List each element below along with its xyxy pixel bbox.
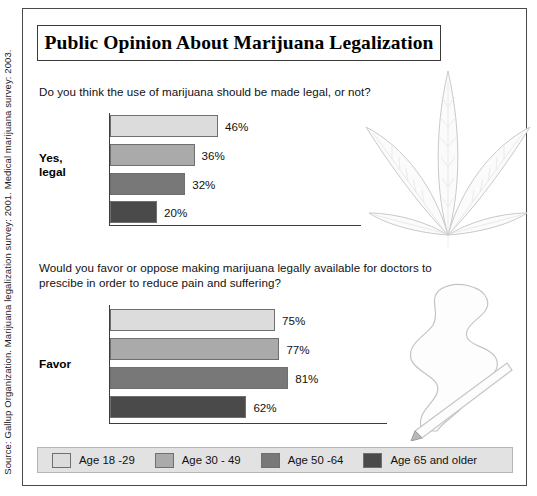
bar-age-18-29 xyxy=(110,115,218,137)
source-credit: Source: Gallup Organization. Marijuana l… xyxy=(3,35,13,475)
bar-value-label: 77% xyxy=(286,343,309,356)
bar-value-label: 46% xyxy=(225,120,248,133)
legend-swatch-icon xyxy=(155,453,174,468)
category-label-2: Favor xyxy=(39,357,105,371)
x-axis-line-2 xyxy=(109,423,387,424)
legend-label: Age 18 -29 xyxy=(79,454,135,466)
category-label-1-line1: Yes, xyxy=(39,151,105,165)
legend-swatch-icon xyxy=(261,453,280,468)
bar-age-30-49 xyxy=(110,144,195,166)
bar-age-65-older xyxy=(110,396,246,418)
bar-value-label: 20% xyxy=(164,206,187,219)
legend-label: Age 30 - 49 xyxy=(182,454,241,466)
category-label-1: Yes, legal xyxy=(39,151,105,179)
page-title: Public Opinion About Marijuana Legalizat… xyxy=(45,32,434,54)
legend-swatch-icon xyxy=(363,453,382,468)
bar-age-50-64 xyxy=(110,173,185,195)
bar-age-18-29 xyxy=(110,309,275,331)
legend: Age 18 -29 Age 30 - 49 Age 50 -64 Age 65… xyxy=(37,447,513,473)
x-axis-line-1 xyxy=(109,225,361,226)
legend-swatch-icon xyxy=(52,453,71,468)
bar-value-label: 32% xyxy=(192,178,215,191)
bar-value-label: 36% xyxy=(202,149,225,162)
bar-age-50-64 xyxy=(110,367,288,389)
question-text-2: Would you favor or oppose making marijua… xyxy=(39,261,459,290)
bar-age-65-older xyxy=(110,201,157,223)
infographic-frame: Public Opinion About Marijuana Legalizat… xyxy=(22,8,527,486)
legend-item-age-30-49: Age 30 - 49 xyxy=(155,453,241,468)
legend-label: Age 50 -64 xyxy=(288,454,344,466)
legend-label: Age 65 and older xyxy=(390,454,477,466)
bar-value-label: 81% xyxy=(295,372,318,385)
lit-joint-icon xyxy=(375,281,537,441)
chart-marijuana-legal: Yes, legal 46% 36% 32% xyxy=(39,113,369,241)
question-text-1: Do you think the use of marijuana should… xyxy=(39,85,459,100)
category-label-2-line1: Favor xyxy=(39,357,105,371)
plot-area-2: 75% 77% 81% 62% xyxy=(109,305,369,437)
bar-value-label: 62% xyxy=(253,401,276,414)
infographic-page: Source: Gallup Organization. Marijuana l… xyxy=(0,0,537,496)
legend-item-age-65-older: Age 65 and older xyxy=(363,453,477,468)
legend-item-age-18-29: Age 18 -29 xyxy=(52,453,135,468)
legend-item-age-50-64: Age 50 -64 xyxy=(261,453,344,468)
bar-value-label: 75% xyxy=(282,314,305,327)
bar-age-30-49 xyxy=(110,338,279,360)
chart-medical-marijuana-favor: Favor 75% 77% 81% 62 xyxy=(39,305,369,437)
category-label-1-line2: legal xyxy=(39,165,105,179)
title-box: Public Opinion About Marijuana Legalizat… xyxy=(37,25,441,61)
plot-area-1: 46% 36% 32% 20% xyxy=(109,113,369,241)
